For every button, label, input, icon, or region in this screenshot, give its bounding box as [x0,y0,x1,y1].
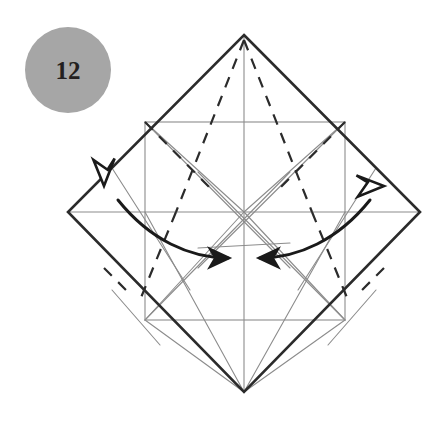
fold-arrow-right-shaft [260,200,370,258]
fold-arrow-left [86,149,228,258]
mountain-fold-line [176,40,244,212]
crease-line [244,320,345,392]
mountain-fold-line [244,40,312,212]
origami-diagram-canvas: 12 [0,0,440,435]
mountain-fold-line [312,212,348,300]
crease-line [145,320,244,392]
fold-arrow-left-shaft [118,200,228,258]
origami-diagram-svg: 12 [0,0,440,435]
crease-line [145,212,244,320]
fold-arrow-right-hollow-head [347,167,384,204]
center-axis-lines [68,35,420,392]
fold-arrow-left-hollow-head [86,149,123,186]
crease-line [145,122,244,212]
step-number-label: 12 [56,57,81,84]
crease-line [244,212,345,392]
step-badge: 12 [25,27,111,113]
crease-line [244,122,345,212]
